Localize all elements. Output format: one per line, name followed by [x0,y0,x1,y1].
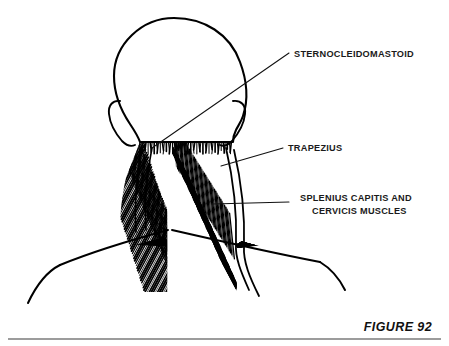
figure-container: STERNOCLEIDOMASTOIDTRAPEZIUSSPLENIUS CAP… [0,0,449,346]
label-line: SPLENIUS CAPITIS AND [300,193,412,203]
figure-caption: FIGURE 92 [364,320,432,334]
label-line: TRAPEZIUS [288,143,342,153]
label-line: STERNOCLEIDOMASTOID [294,49,414,59]
label-line: CERVICIS MUSCLES [312,206,407,216]
label-trapezius: TRAPEZIUS [288,143,342,153]
anatomy-illustration: STERNOCLEIDOMASTOIDTRAPEZIUSSPLENIUS CAP… [0,0,449,346]
nuchal-midline-stripe [169,142,171,292]
label-sternocleidomastoid: STERNOCLEIDOMASTOID [294,49,414,59]
